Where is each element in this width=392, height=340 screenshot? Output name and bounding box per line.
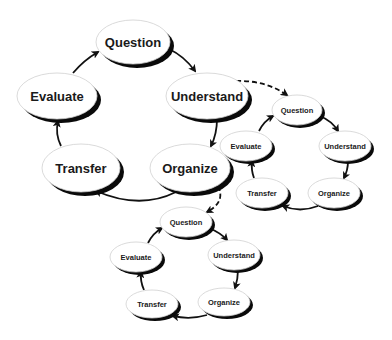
edge-right-evaluate-to-question	[259, 116, 273, 131]
node-label: Understand	[171, 89, 243, 104]
node-label: Organize	[318, 189, 350, 198]
bottom-node-evaluate: Evaluate	[110, 242, 165, 275]
main-node-question: Question	[96, 20, 174, 68]
node-label: Understand	[213, 251, 255, 260]
node-label: Transfer	[137, 300, 167, 309]
main-node-organize: Organize	[150, 144, 234, 196]
edge-bottom-organize-to-transfer	[173, 315, 207, 318]
edge-main-organize-to-transfer	[96, 191, 176, 201]
main-node-transfer: Transfer	[42, 144, 124, 196]
edge-main-transfer-to-evaluate	[57, 121, 61, 146]
main-cycle: QuestionUnderstandOrganizeTransferEvalua…	[17, 20, 252, 196]
right-node-question: Question	[272, 95, 325, 128]
node-label: Understand	[324, 142, 366, 151]
bottom-node-transfer: Transfer	[126, 290, 181, 321]
node-label: Evaluate	[30, 89, 83, 104]
node-label: Question	[105, 35, 161, 50]
edge-main-question-to-understand	[169, 49, 195, 71]
edge-main-evaluate-to-question	[73, 52, 98, 73]
node-label: Evaluate	[121, 253, 152, 262]
nodes-layer: QuestionUnderstandOrganizeTransferEvalua…	[17, 20, 374, 321]
bottom-node-question: Question	[160, 207, 215, 240]
main-node-evaluate: Evaluate	[17, 73, 101, 123]
edge-right-organize-to-transfer	[283, 206, 318, 210]
right-node-understand: Understand	[319, 131, 374, 164]
learning-cycle-diagram: QuestionUnderstandOrganizeTransferEvalua…	[0, 0, 392, 340]
node-label: Transfer	[247, 189, 277, 198]
node-label: Question	[281, 106, 314, 115]
edge-bottom-evaluate-to-question	[148, 228, 162, 243]
bottom-node-understand: Understand	[208, 240, 263, 273]
node-label: Evaluate	[231, 142, 262, 151]
node-label: Organize	[162, 161, 218, 176]
edge-main-understand-to-organize	[211, 119, 217, 146]
node-label: Question	[170, 218, 203, 227]
node-label: Organize	[208, 298, 240, 307]
right-node-evaluate: Evaluate	[220, 131, 275, 164]
bottom-cycle: QuestionUnderstandOrganizeTransferEvalua…	[110, 207, 263, 321]
right-node-transfer: Transfer	[236, 178, 291, 211]
node-label: Transfer	[55, 161, 106, 176]
